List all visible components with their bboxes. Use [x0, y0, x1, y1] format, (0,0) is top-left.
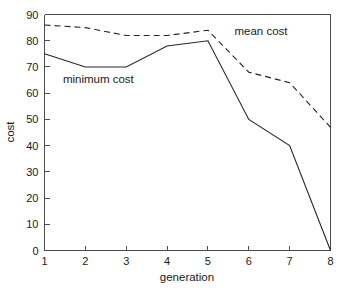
y-tick-label: 0	[32, 245, 38, 257]
y-axis-ticks	[45, 15, 50, 251]
series-annotation-mean-cost: mean cost	[234, 25, 288, 37]
line-chart-figure: 0102030405060708090 12345678 mean cost m…	[0, 0, 344, 288]
axis-frame	[45, 15, 331, 251]
x-tick-label: 8	[327, 255, 333, 267]
x-tick-label: 2	[82, 255, 88, 267]
y-tick-label: 40	[26, 140, 38, 152]
x-tick-label: 5	[205, 255, 211, 267]
x-tick-label: 7	[287, 255, 293, 267]
y-tick-label: 80	[26, 35, 38, 47]
y-tick-label: 90	[26, 9, 38, 21]
y-tick-label: 50	[26, 113, 38, 125]
x-tick-label: 4	[164, 255, 170, 267]
x-axis-ticks	[45, 246, 331, 251]
x-tick-label: 1	[41, 255, 47, 267]
y-axis-title: cost	[4, 121, 16, 143]
x-tick-label: 6	[246, 255, 252, 267]
series-annotation-minimum-cost: minimum cost	[63, 73, 135, 85]
x-tick-label: 3	[123, 255, 129, 267]
chart-canvas: 0102030405060708090 12345678 mean cost m…	[0, 0, 344, 288]
x-axis-tick-labels: 12345678	[41, 255, 333, 267]
y-tick-label: 10	[26, 218, 38, 230]
y-tick-label: 20	[26, 192, 38, 204]
y-axis-tick-labels: 0102030405060708090	[26, 9, 38, 257]
y-tick-label: 70	[26, 61, 38, 73]
y-tick-label: 30	[26, 166, 38, 178]
x-axis-title: generation	[160, 271, 214, 283]
y-tick-label: 60	[26, 87, 38, 99]
